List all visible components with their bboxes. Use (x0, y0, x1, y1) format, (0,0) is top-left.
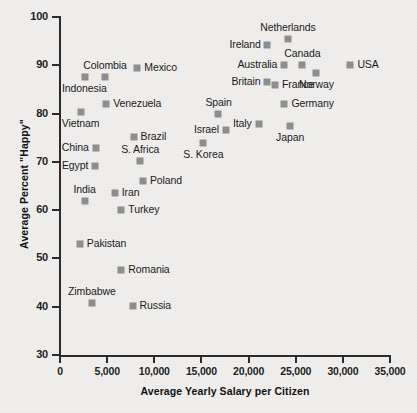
data-point (118, 207, 125, 214)
x-tick-label: 20,000 (233, 365, 264, 377)
data-point (91, 162, 98, 169)
data-point-label: China (62, 141, 89, 153)
data-point (255, 120, 262, 127)
x-tick-label: 30,000 (327, 365, 358, 377)
x-tick-label: 10,000 (139, 365, 170, 377)
data-point-label: Russia (140, 299, 172, 311)
data-point (285, 35, 292, 42)
data-point-label: Vietnam (62, 117, 100, 129)
y-axis-title: Average Percent "Happy" (18, 74, 30, 294)
data-point-label: S. Korea (183, 148, 223, 160)
data-point (139, 178, 146, 185)
data-point (281, 100, 288, 107)
y-tick-label: 90 (14, 58, 48, 70)
x-axis-title: Average Yearly Salary per Citizen (59, 385, 391, 397)
data-point (200, 139, 207, 146)
data-point-label: Brazil (141, 130, 167, 142)
x-tick-label: 35,000 (375, 365, 406, 377)
data-point-label: Spain (205, 96, 231, 108)
plot-area: 30405060708090100 05,00010,00015,00020,0… (0, 0, 417, 413)
data-point-label: Mexico (144, 61, 177, 73)
data-point (264, 79, 271, 86)
x-tick-label: 5,000 (95, 365, 120, 377)
x-tick-label: 15,000 (186, 365, 217, 377)
data-point-label: India (74, 183, 96, 195)
data-point (130, 133, 137, 140)
data-point (92, 144, 99, 151)
data-point-label: France (282, 78, 314, 90)
data-point (281, 62, 288, 69)
data-point-label: Egypt (62, 159, 88, 171)
x-tick (248, 356, 250, 363)
x-tick (342, 356, 344, 363)
data-point (215, 110, 222, 117)
data-point (77, 109, 84, 116)
x-tick-label: 25,000 (280, 365, 311, 377)
data-point (129, 302, 136, 309)
data-point-label: Romania (128, 263, 169, 275)
data-point (287, 122, 294, 129)
data-point (81, 197, 88, 204)
y-tick-label: 30 (14, 348, 48, 360)
x-tick-label: 0 (57, 365, 63, 377)
y-tick-label: 40 (14, 300, 48, 312)
y-tick-label: 100 (14, 10, 48, 22)
data-point-label: Germany (291, 97, 333, 109)
data-point-label: Britain (231, 75, 260, 87)
data-point (118, 266, 125, 273)
data-point-label: Italy (233, 117, 252, 129)
data-point-label: USA (357, 58, 378, 70)
y-tick (52, 161, 60, 163)
y-tick (52, 113, 60, 115)
y-tick (52, 257, 60, 259)
data-point-label: Australia (237, 58, 277, 70)
data-point-label: Venezuela (113, 97, 161, 109)
data-point-label: Israel (194, 123, 219, 135)
data-point (89, 299, 96, 306)
data-point (347, 62, 354, 69)
data-point-label: Colombia (83, 59, 127, 71)
data-point-label: Netherlands (260, 21, 316, 33)
data-point (103, 100, 110, 107)
y-tick (52, 16, 60, 18)
data-point (76, 240, 83, 247)
data-point (299, 62, 306, 69)
data-point-label: Zimbabwe (68, 285, 116, 297)
data-point-label: Iran (122, 186, 140, 198)
data-point (134, 64, 141, 71)
data-point (271, 82, 278, 89)
data-point (81, 74, 88, 81)
x-tick (106, 356, 108, 363)
data-point (102, 74, 109, 81)
data-point-label: Pakistan (87, 237, 126, 249)
y-tick (52, 306, 60, 308)
data-point-label: Indonesia (62, 82, 107, 94)
x-tick (295, 356, 297, 363)
data-point (313, 70, 320, 77)
data-point (111, 190, 118, 197)
data-point-label: Ireland (229, 38, 260, 50)
x-tick (153, 356, 155, 363)
data-point-label: Japan (276, 131, 304, 143)
scatter-chart: 30405060708090100 05,00010,00015,00020,0… (0, 0, 417, 413)
x-tick (59, 356, 61, 363)
data-point (264, 42, 271, 49)
x-tick (389, 356, 391, 363)
x-tick (200, 356, 202, 363)
data-point (137, 157, 144, 164)
data-point-label: Turkey (128, 203, 159, 215)
y-tick (52, 64, 60, 66)
data-point-label: S. Africa (121, 143, 159, 155)
data-point (222, 126, 229, 133)
data-point-label: Canada (284, 47, 320, 59)
data-point-label: Poland (150, 174, 182, 186)
y-tick (52, 209, 60, 211)
